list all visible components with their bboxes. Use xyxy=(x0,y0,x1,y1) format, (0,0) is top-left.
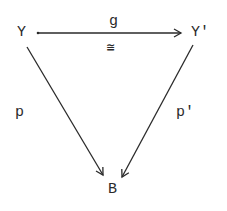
label-g: g xyxy=(109,14,118,29)
node-y-prime: Y' xyxy=(191,25,209,40)
label-p-prime: p' xyxy=(176,105,194,120)
arrow-p xyxy=(27,47,103,175)
isomorphism-symbol: ≅ xyxy=(106,42,115,53)
node-y: Y xyxy=(17,25,26,40)
node-b: B xyxy=(108,182,117,197)
arrow-g xyxy=(37,32,181,35)
label-p: p xyxy=(15,105,24,120)
commutative-diagram: Y Y' B g ≅ p p' xyxy=(0,0,227,211)
